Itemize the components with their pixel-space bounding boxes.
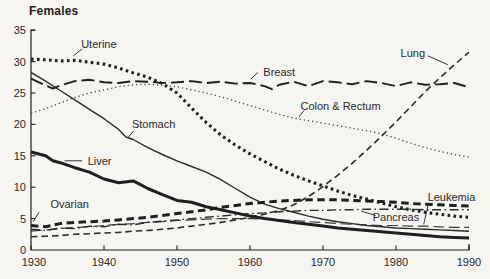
- label-leader-ovarian: [33, 212, 39, 221]
- label-leader-breast: [251, 72, 258, 79]
- y-tick-label: 35: [14, 24, 26, 36]
- series-stomach-line: [31, 72, 469, 231]
- y-tick-label: 25: [14, 87, 26, 99]
- x-tick-label: 1940: [92, 256, 116, 268]
- y-tick-label: 5: [20, 213, 26, 225]
- y-tick-label: 10: [14, 181, 26, 193]
- series-label-breast: Breast: [263, 66, 295, 78]
- series-colon-rectum-line: [31, 84, 469, 157]
- x-tick-label: 1930: [22, 256, 46, 268]
- x-tick-label: 1950: [165, 256, 189, 268]
- x-tick-label: 1990: [457, 256, 481, 268]
- line-chart-canvas: 0510152025303519301940195019601970198019…: [0, 0, 490, 279]
- label-leader-uterine: [73, 49, 82, 56]
- series-label-uterine: Uterine: [81, 38, 116, 50]
- x-tick-label: 1980: [384, 256, 408, 268]
- y-tick-label: 0: [20, 244, 26, 256]
- label-leader-stomach: [128, 131, 133, 137]
- series-label-ovarian: Ovarian: [50, 198, 89, 210]
- series-breast-line: [31, 79, 469, 90]
- series-label-colon-rectum: Colon & Rectum: [300, 100, 380, 112]
- label-leader-leukemia: [424, 205, 428, 224]
- y-tick-label: 15: [14, 150, 26, 162]
- y-tick-label: 30: [14, 56, 26, 68]
- series-label-pancreas: Pancreas: [373, 211, 420, 223]
- x-tick-label: 1960: [238, 256, 262, 268]
- label-leader-lung: [428, 56, 448, 65]
- series-label-liver: Liver: [88, 155, 112, 167]
- series-label-leukemia: Leukemia: [428, 191, 477, 203]
- series-label-lung: Lung: [401, 47, 425, 59]
- x-tick-label: 1970: [311, 256, 335, 268]
- series-label-stomach: Stomach: [132, 118, 175, 130]
- cancer-death-rate-chart: Females 05101520253035193019401950196019…: [0, 0, 490, 279]
- y-tick-label: 20: [14, 118, 26, 130]
